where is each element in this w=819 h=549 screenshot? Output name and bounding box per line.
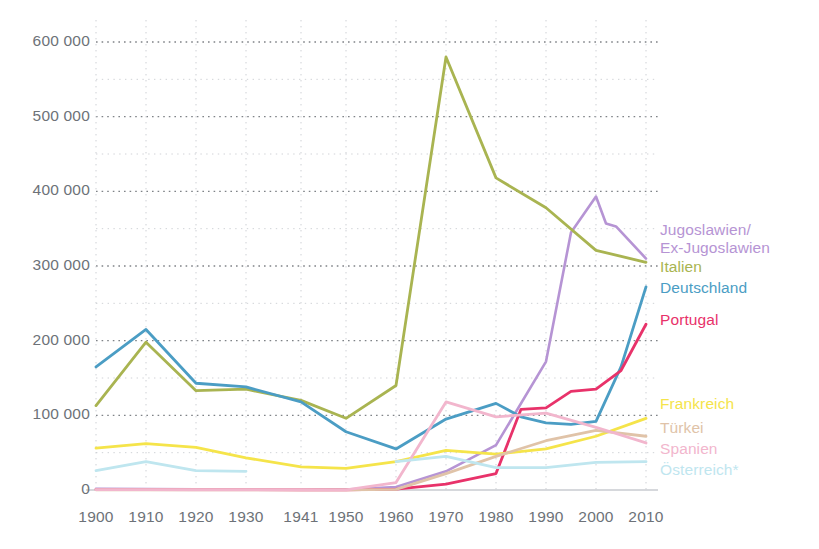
series-line-5 (96, 418, 646, 468)
legend-item-label: Österreich* (660, 461, 739, 478)
y-axis-tick-label: 300 000 (33, 256, 90, 274)
legend-item-label: Frankreich (660, 395, 734, 412)
series-line-8 (396, 456, 646, 467)
y-axis-tick-label: 200 000 (33, 331, 90, 349)
series-line-3 (96, 287, 646, 449)
legend-item-label: Italien (660, 258, 702, 275)
legend-item-2[interactable]: Italien (660, 258, 702, 275)
legend-item-6[interactable]: Türkei (660, 419, 704, 436)
y-axis-tick-label: 500 000 (33, 107, 90, 125)
y-axis-tick-label: 0 (81, 480, 90, 498)
chart-container: 600 000500 000400 000300 000200 000100 0… (0, 0, 819, 549)
legend-item-label: Türkei (660, 419, 704, 436)
data-series-lines (96, 57, 646, 490)
y-axis-tick-label: 100 000 (33, 405, 90, 423)
grid-major-lines (96, 42, 660, 415)
legend-item-8[interactable]: Österreich* (660, 461, 739, 478)
legend-item-1[interactable]: Jugoslawien/Ex-Jugoslawien (660, 221, 770, 256)
y-axis-tick-label: 400 000 (33, 181, 90, 199)
legend-item-label: Deutschland (660, 279, 747, 296)
legend-item-label-line2: Ex-Jugoslawien (660, 239, 770, 257)
legend-item-label: Portugal (660, 311, 719, 328)
x-axis-tick-label: 2010 (614, 508, 678, 526)
legend-item-7[interactable]: Spanien (660, 440, 718, 457)
y-axis-tick-label: 600 000 (33, 32, 90, 50)
legend-item-label: Spanien (660, 440, 718, 457)
series-line-8 (96, 462, 246, 472)
legend-item-label: Jugoslawien/ (660, 221, 770, 239)
legend-item-3[interactable]: Deutschland (660, 279, 747, 296)
legend-item-5[interactable]: Frankreich (660, 395, 734, 412)
legend-item-4[interactable]: Portugal (660, 311, 719, 328)
